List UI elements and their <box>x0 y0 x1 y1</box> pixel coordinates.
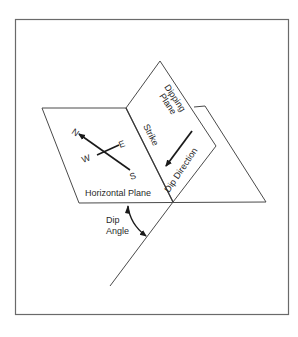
figure-frame <box>16 20 289 315</box>
dip-angle-label-line1: Dip <box>106 215 120 225</box>
compass-south-label: S <box>128 170 137 181</box>
dip-angle-arrowhead-top <box>125 205 130 214</box>
compass-north-label: N <box>70 126 81 138</box>
compass-icon: N S E W <box>70 126 137 181</box>
compass-west-label: W <box>80 152 92 164</box>
compass-east-label: E <box>117 138 126 149</box>
dip-angle-label-line2: Angle <box>106 226 129 236</box>
dip-angle-arc <box>128 206 146 236</box>
strike-dip-diagram: N S E W Horizontal Plane Dipping Plane S… <box>0 0 298 337</box>
horizontal-plane-label: Horizontal Plane <box>85 188 151 198</box>
